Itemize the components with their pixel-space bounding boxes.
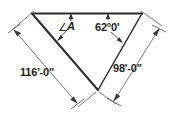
angle-a-label: A [66,20,75,32]
angle-a-callout: ∠ A [57,14,75,42]
angle-a-leader-arrow [57,35,63,41]
left-dim-arrow-upper [13,29,21,36]
left-dim-arrow-lower [70,96,78,103]
dimension-drawing-figure: 116'-0" 98'-0" [0,0,178,127]
right-dim-tick-upper [152,25,166,32]
angle-b-label: 62°0' [95,21,120,33]
left-side-dimension-label: 116'-0" [20,66,54,78]
triangle-outline [32,14,142,91]
right-dim-extension-upper [141,11,162,26]
right-dim-arrow-upper [153,28,160,36]
right-side-dimension-label: 98'-0" [113,62,142,74]
right-dim-arrow-lower [113,94,120,102]
angle-b-callout: 62°0' [95,14,123,44]
left-dim-extension-lower [78,92,96,107]
left-dimension-group: 116'-0" [8,11,96,109]
right-dim-tick-lower [107,98,121,106]
figure-canvas: 116'-0" 98'-0" [0,0,178,127]
